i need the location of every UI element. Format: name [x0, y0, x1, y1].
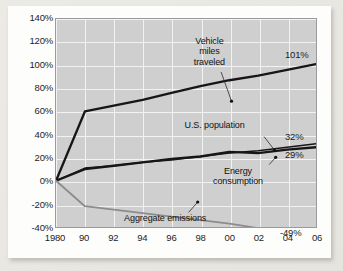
page-root: 140%120%100%80%60%40%20%0%-20%-40% Vehic… — [0, 0, 343, 271]
x-axis-tick-label: 94 — [137, 232, 147, 244]
annotation-line: consumption — [213, 176, 263, 187]
plot-area: VehiclemilestraveledU.S. populationEnerg… — [55, 18, 317, 228]
annotation-aggregate-emissions: Aggregate emissions — [124, 213, 206, 224]
y-axis-tick-label: 0% — [9, 176, 53, 186]
x-axis-tick-label: 00 — [225, 232, 235, 244]
annotation-line: Aggregate emissions — [124, 213, 206, 224]
y-axis-tick-label: 20% — [9, 153, 53, 163]
annotation-us-population: U.S. population — [185, 120, 245, 131]
annotation-energy-consumption: Energyconsumption — [213, 166, 263, 187]
annotation-marker-dot — [273, 148, 276, 151]
y-axis-tick-label: 80% — [9, 83, 53, 93]
x-axis-tick-label: 90 — [79, 232, 89, 244]
value-label-vehicle-miles-traveled: 101% — [285, 50, 309, 60]
annotation-leader-line — [189, 202, 198, 212]
x-axis-tick-label: 1980 — [45, 232, 65, 244]
series-line — [56, 144, 316, 181]
series-line — [56, 147, 316, 181]
value-label-u-s-population: 32% — [285, 132, 303, 142]
y-axis-tick-label: 140% — [9, 13, 53, 23]
y-axis-tick-label: -20% — [9, 200, 53, 210]
x-axis: 1980909294969800020406 — [55, 232, 317, 248]
x-axis-tick-label: 98 — [195, 232, 205, 244]
x-axis-tick-label: 06 — [312, 232, 322, 244]
annotation-marker-dot — [230, 100, 233, 103]
y-axis-tick-label: 60% — [9, 106, 53, 116]
y-axis: 140%120%100%80%60%40%20%0%-20%-40% — [8, 18, 53, 228]
annotation-marker-dot — [274, 156, 277, 159]
annotation-line: miles — [194, 46, 225, 57]
annotation-line: Vehicle — [194, 36, 225, 47]
value-label-aggregate-emissions: -49% — [280, 228, 301, 238]
annotation-line: traveled — [194, 57, 225, 68]
y-axis-tick-label: 100% — [9, 60, 53, 70]
x-axis-tick-label: 92 — [108, 232, 118, 244]
annotation-vehicle-miles-traveled: Vehiclemilestraveled — [194, 36, 225, 68]
y-axis-tick-label: 40% — [9, 130, 53, 140]
annotation-line: U.S. population — [185, 120, 245, 131]
x-axis-tick-label: 96 — [166, 232, 176, 244]
chart-figure: 140%120%100%80%60%40%20%0%-20%-40% Vehic… — [8, 6, 331, 258]
annotation-line: Energy — [213, 166, 263, 177]
value-label-energy-consumption: 29% — [285, 150, 303, 160]
y-axis-tick-label: 120% — [9, 36, 53, 46]
annotation-leader-line — [221, 72, 231, 101]
annotation-marker-dot — [196, 200, 199, 203]
x-axis-tick-label: 02 — [254, 232, 264, 244]
annotation-leader-line — [264, 137, 274, 151]
